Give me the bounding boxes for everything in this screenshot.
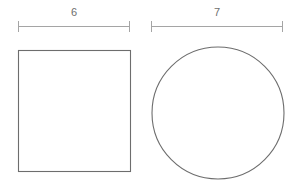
- circle-dimension-label: 7: [214, 6, 220, 18]
- square-dimension-group: 6: [18, 6, 130, 32]
- diagram-canvas: 6 7: [0, 0, 299, 192]
- geometry-figure: 6 7: [0, 0, 299, 192]
- square-shape: [19, 51, 131, 172]
- circle-dimension-group: 7: [151, 6, 283, 32]
- circle-shape: [152, 47, 284, 179]
- square-dimension-label: 6: [71, 6, 77, 18]
